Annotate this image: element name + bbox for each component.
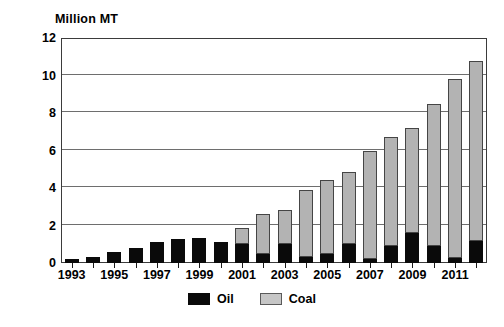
legend-label-oil: Oil xyxy=(217,292,234,306)
x-tick-label-1995: 1995 xyxy=(100,268,128,282)
gridline-6 xyxy=(62,149,486,150)
x-tick-label-2005: 2005 xyxy=(313,268,341,282)
y-tick-label-6: 6 xyxy=(10,144,56,158)
y-axis-unit-label: Million MT xyxy=(55,12,118,26)
y-tick-label-10: 10 xyxy=(10,69,56,83)
legend-label-coal: Coal xyxy=(289,292,316,306)
y-tick-label-4: 4 xyxy=(10,181,56,195)
x-tick-label-2003: 2003 xyxy=(271,268,299,282)
gridline-4 xyxy=(62,186,486,187)
x-tick-label-1997: 1997 xyxy=(143,268,171,282)
gridline-8 xyxy=(62,111,486,112)
y-tick-label-12: 12 xyxy=(10,31,56,45)
y-tick-label-0: 0 xyxy=(10,256,56,270)
legend-item-oil: Oil xyxy=(188,292,234,306)
gridline-10 xyxy=(62,74,486,75)
y-axis-tick-labels: 024681012 xyxy=(0,38,56,263)
y-tick-label-2: 2 xyxy=(10,219,56,233)
legend-item-coal: Coal xyxy=(260,292,316,306)
oil-swatch-icon xyxy=(188,293,210,305)
x-tick-label-2007: 2007 xyxy=(356,268,384,282)
x-tick-label-2001: 2001 xyxy=(228,268,256,282)
x-tick-label-1999: 1999 xyxy=(186,268,214,282)
chart-legend: Oil Coal xyxy=(0,292,504,306)
x-tick-label-2009: 2009 xyxy=(399,268,427,282)
x-axis-tick-labels: 1993199519971999200120032005200720092011 xyxy=(61,268,487,286)
x-tick-label-2011: 2011 xyxy=(441,268,468,282)
stacked-bar-chart: Million MT 024681012 1993199519971999200… xyxy=(0,0,504,327)
coal-swatch-icon xyxy=(260,293,282,305)
y-tick-label-8: 8 xyxy=(10,106,56,120)
plot-area xyxy=(61,38,487,263)
gridline-2 xyxy=(62,224,486,225)
x-tick-label-1993: 1993 xyxy=(58,268,86,282)
